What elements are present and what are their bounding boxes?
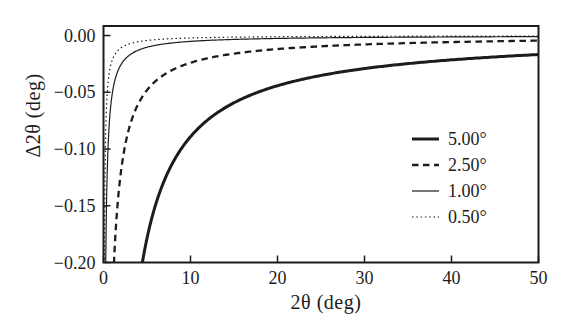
x-axis-title: 2θ (deg) <box>226 291 426 314</box>
figure: 010203040500.00−0.05−0.10−0.15−0.20 Δ2θ … <box>0 0 567 330</box>
x-tick-label: 30 <box>356 268 374 288</box>
legend-item: 1.00° <box>412 178 487 204</box>
legend-line-sample-icon <box>412 187 439 195</box>
legend-item: 0.50° <box>412 204 487 230</box>
legend-line-sample-icon <box>412 213 439 221</box>
y-tick-label: −0.20 <box>54 253 96 273</box>
y-tick-label: −0.15 <box>54 196 96 216</box>
legend: 5.00° 2.50° 1.00° 0.50° <box>412 126 487 230</box>
x-tick-label: 40 <box>443 268 461 288</box>
legend-line-sample-icon <box>412 135 439 143</box>
y-tick-label: −0.10 <box>54 139 96 159</box>
legend-label: 2.50° <box>448 156 487 174</box>
legend-line-sample-icon <box>412 161 439 169</box>
x-tick-label: 50 <box>530 268 548 288</box>
x-tick-label: 10 <box>182 268 200 288</box>
legend-item: 2.50° <box>412 152 487 178</box>
x-tick-label: 0 <box>99 268 108 288</box>
y-tick-label: −0.05 <box>54 82 96 102</box>
x-tick-label: 20 <box>269 268 287 288</box>
y-tick-label: 0.00 <box>64 26 96 46</box>
y-axis-title: Δ2θ (deg) <box>22 16 45 216</box>
legend-item: 5.00° <box>412 126 487 152</box>
legend-label: 5.00° <box>448 130 487 148</box>
legend-label: 0.50° <box>448 208 487 226</box>
legend-label: 1.00° <box>448 182 487 200</box>
